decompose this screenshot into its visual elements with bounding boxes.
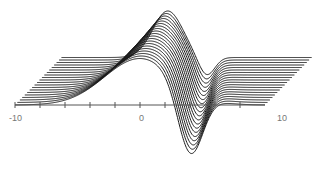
waterfall-plot (0, 0, 321, 179)
x-tick-label-min: -10 (9, 113, 22, 123)
series-curve (30, 44, 280, 129)
x-tick-label-zero: 0 (139, 113, 144, 123)
curve-series-group (15, 11, 312, 179)
series-curve (22, 51, 272, 141)
x-tick-label-max: 10 (277, 113, 287, 123)
series-curve (37, 36, 287, 116)
